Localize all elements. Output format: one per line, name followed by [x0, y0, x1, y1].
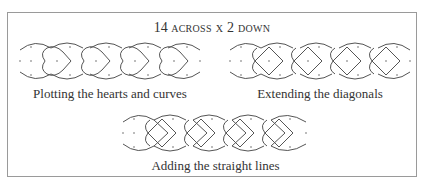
straight-lines-diagram [118, 112, 313, 154]
caption-hearts: Plotting the hearts and curves [15, 86, 205, 102]
caption-straight-lines: Adding the straight lines [118, 158, 313, 174]
title-number: 14 [154, 20, 168, 35]
panel-hearts [15, 40, 205, 82]
panel-straight-lines [118, 112, 313, 154]
diagonals-diagram [225, 40, 415, 82]
figure-title: 14 across x 2 down [8, 20, 416, 36]
panel-diagonals [225, 40, 415, 82]
caption-diagonals: Extending the diagonals [225, 86, 415, 102]
hearts-diagram [15, 40, 205, 82]
title-words: across x 2 down [171, 20, 270, 35]
